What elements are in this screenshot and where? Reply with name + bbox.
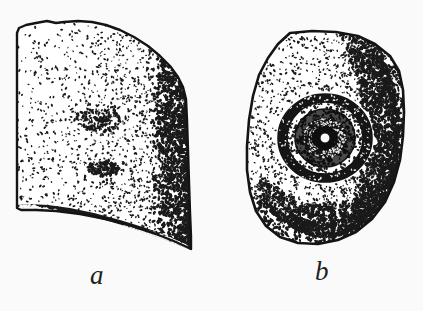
figure-plate: a b bbox=[0, 0, 423, 311]
illustration-canvas bbox=[0, 0, 423, 311]
figure-caption-b: b bbox=[315, 258, 329, 285]
socket-central-perforation bbox=[320, 133, 330, 143]
figure-b-socket bbox=[278, 94, 372, 182]
figure-caption-a: a bbox=[90, 262, 104, 289]
